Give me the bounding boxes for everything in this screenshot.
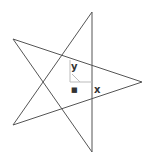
x-label: x [94, 85, 100, 95]
diagram-canvas: y x ■ [0, 0, 153, 158]
y-label: y [71, 62, 78, 72]
star-edge-leftupper-bottom [13, 39, 92, 152]
star-edge-top-leftlower [13, 12, 92, 125]
hypotenuse-line [72, 74, 80, 82]
pentagram-figure [0, 0, 153, 158]
origin-marker: ■ [71, 85, 78, 95]
